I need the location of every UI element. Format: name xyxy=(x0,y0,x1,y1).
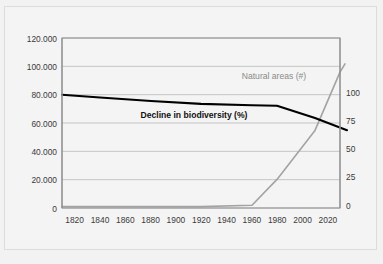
y-right-tick-0: 0 xyxy=(346,201,351,211)
x-tick-2020: 2020 xyxy=(319,215,338,225)
natural-areas-label: Natural areas (#) xyxy=(242,71,307,81)
x-tick-2000: 2000 xyxy=(293,215,312,225)
y-axis-left-labels: 120.000 100.000 80.000 60.000 40.000 20.… xyxy=(27,34,58,214)
y-right-tick-50: 50 xyxy=(346,144,356,154)
x-tick-1940: 1940 xyxy=(217,215,236,225)
y-axis-right-labels: 100 75 50 25 0 xyxy=(346,88,360,210)
x-tick-1960: 1960 xyxy=(243,215,262,225)
x-tick-1860: 1860 xyxy=(116,215,135,225)
y-left-tick-60000: 60.000 xyxy=(31,119,57,129)
x-tick-1980: 1980 xyxy=(268,215,287,225)
y-left-tick-120000: 120.000 xyxy=(27,34,58,44)
x-tick-1900: 1900 xyxy=(167,215,186,225)
plot-area xyxy=(62,38,347,208)
y-right-tick-75: 75 xyxy=(346,116,356,126)
x-tick-1880: 1880 xyxy=(141,215,160,225)
y-left-tick-100000: 100.000 xyxy=(27,62,58,72)
y-left-tick-0: 0 xyxy=(52,204,57,214)
x-axis-labels: 1820 1840 1860 1880 1900 1920 1940 1960 … xyxy=(65,215,337,225)
y-left-tick-40000: 40.000 xyxy=(31,147,57,157)
biodiversity-natural-areas-chart: 120.000 100.000 80.000 60.000 40.000 20.… xyxy=(0,0,383,264)
y-right-tick-25: 25 xyxy=(346,172,356,182)
y-left-tick-80000: 80.000 xyxy=(31,90,57,100)
decline-biodiversity-label: Decline in biodiversity (%) xyxy=(141,110,248,120)
x-tick-1840: 1840 xyxy=(91,215,110,225)
x-tick-1820: 1820 xyxy=(65,215,84,225)
y-right-tick-100: 100 xyxy=(346,88,360,98)
y-left-tick-20000: 20.000 xyxy=(31,175,57,185)
x-tick-1920: 1920 xyxy=(192,215,211,225)
chart-figure: 120.000 100.000 80.000 60.000 40.000 20.… xyxy=(0,0,383,264)
